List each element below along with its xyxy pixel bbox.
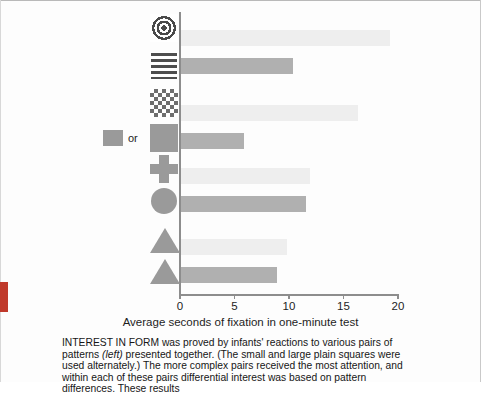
small-plain-square-icon [103, 130, 123, 146]
triangle-shape-icon-lower [150, 259, 180, 284]
x-ticklabel-15: 15 [329, 300, 359, 312]
x-ticklabel-20: 20 [383, 300, 413, 312]
x-ticklabel-5: 5 [220, 300, 250, 312]
bar-large-square [181, 133, 244, 149]
bar-triangle-dark [181, 267, 277, 283]
figure-caption: INTEREST IN FORM was proved by infants' … [62, 337, 420, 395]
caption-line-1: INTEREST IN FORM was proved by infants' … [62, 337, 392, 348]
circle-shape-icon [151, 188, 177, 214]
x-tick-5 [234, 294, 236, 299]
bar-triangle-light [181, 239, 287, 255]
bar-circle [181, 196, 306, 212]
checkerboard-pattern-icon [150, 89, 178, 117]
x-ticklabel-0: 0 [165, 300, 195, 312]
bullseye-pattern-icon [150, 14, 178, 42]
bar-checkerboard [181, 105, 358, 121]
horizontal-stripes-pattern-icon [150, 52, 178, 80]
bar-cross [181, 168, 310, 184]
caption-line-2a: patterns [62, 349, 102, 360]
x-tick-10 [288, 294, 290, 299]
cross-shape-icon [150, 155, 178, 183]
bar-bullseye [181, 30, 390, 46]
x-tick-0 [179, 294, 181, 299]
or-label: or [128, 132, 138, 144]
triangle-shape-icon-upper [150, 228, 180, 253]
caption-left-emphasis: (left) [102, 349, 123, 360]
x-ticklabel-10: 10 [274, 300, 304, 312]
bar-stripes [181, 58, 293, 74]
large-plain-square-icon [150, 124, 178, 152]
figure-chart: 0 5 10 15 20 or Average seconds of fixat… [0, 0, 481, 330]
x-axis-label: Average seconds of fixation in one-minut… [0, 316, 481, 328]
x-tick-20 [397, 294, 399, 299]
x-tick-15 [343, 294, 345, 299]
